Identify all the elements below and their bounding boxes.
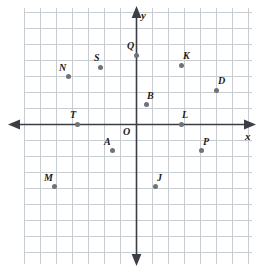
point-label-n: N: [59, 63, 66, 73]
y-axis-arrow-up: [132, 6, 142, 18]
point-j: [153, 184, 158, 189]
point-k: [179, 63, 184, 68]
point-l: [179, 122, 184, 127]
point-n: [66, 74, 71, 79]
point-q: [134, 53, 139, 58]
point-p: [199, 148, 204, 153]
point-b: [144, 102, 149, 107]
point-label-k: K: [183, 51, 190, 61]
point-label-d: D: [218, 76, 225, 86]
x-axis-label: x: [245, 131, 251, 142]
point-label-q: Q: [127, 41, 134, 51]
x-axis-arrow-left: [8, 120, 20, 130]
point-label-j: J: [157, 173, 162, 183]
y-axis-label: y: [141, 10, 146, 21]
y-axis-arrow-down: [132, 254, 142, 266]
point-label-t: T: [70, 110, 76, 120]
coordinate-plane: O QSKNDBTLAPMJ xy: [0, 0, 263, 273]
point-label-b: B: [147, 91, 154, 101]
point-t: [75, 122, 80, 127]
point-label-l: L: [182, 110, 188, 120]
point-d: [214, 88, 219, 93]
x-axis-arrow-right: [244, 120, 256, 130]
point-label-m: M: [44, 173, 53, 183]
point-label-s: S: [94, 53, 100, 63]
point-a: [110, 148, 115, 153]
origin-label: O: [123, 127, 130, 137]
point-label-a: A: [104, 137, 111, 147]
point-m: [52, 184, 57, 189]
point-label-p: P: [203, 137, 209, 147]
point-s: [98, 65, 103, 70]
